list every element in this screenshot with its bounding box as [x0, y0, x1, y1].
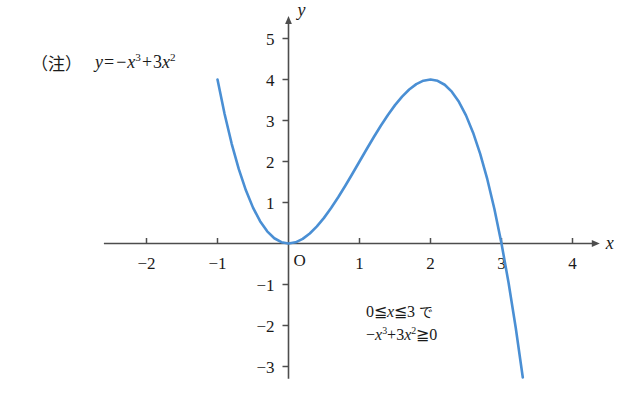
- equation-term2-sign: +: [141, 52, 153, 72]
- annotation-line-1: 0≦x≦3 で: [366, 300, 437, 323]
- x-tick-label: 1: [355, 254, 364, 273]
- annotation-le-2: ≦: [394, 303, 407, 320]
- annotation-line-2: −x3+3x2≧0: [366, 323, 437, 346]
- y-tick-label: −1: [256, 276, 274, 295]
- x-tick-label: 4: [568, 254, 577, 273]
- origin-label: O: [294, 251, 306, 270]
- y-tick-label: 4: [266, 71, 275, 90]
- axes-group: [104, 22, 594, 379]
- domain-annotation: 0≦x≦3 で −x3+3x2≧0: [366, 300, 437, 346]
- x-axis-label: x: [605, 233, 614, 253]
- x-axis-arrowhead: [592, 240, 600, 247]
- equation-equals: =: [103, 52, 115, 72]
- annotation-zero-lower: 0: [366, 303, 374, 320]
- annotation-particle-de: で: [419, 304, 433, 320]
- annotation-le-1: ≦: [374, 303, 387, 320]
- equation-lhs: y: [95, 52, 103, 72]
- tick-marks-group: [147, 39, 573, 367]
- note-marker-label: （注）: [31, 50, 82, 75]
- equation-term2-exponent: 2: [170, 51, 176, 63]
- annotation-coefficient-2: 3: [396, 326, 404, 343]
- annotation-zero-rhs: 0: [429, 326, 437, 343]
- equation-term2-base: x: [162, 52, 170, 72]
- note-equation: y=−x3+3x2: [95, 51, 176, 73]
- y-tick-label: 2: [266, 153, 275, 172]
- x-tick-label: 2: [426, 254, 435, 273]
- y-tick-label: −3: [256, 358, 274, 377]
- annotation-minus-sign: −: [366, 326, 375, 343]
- equation-term2-coefficient: 3: [153, 52, 162, 72]
- x-tick-label: −1: [208, 254, 226, 273]
- y-tick-label: −2: [256, 317, 274, 336]
- graph-figure: （注） y=−x3+3x2 0≦x≦3 で −x3+3x2≧0 −2−11234…: [0, 0, 639, 394]
- y-tick-label: 3: [266, 112, 275, 131]
- x-tick-label: −2: [137, 254, 155, 273]
- annotation-three: 3: [407, 303, 415, 320]
- tick-labels-group: −2−1123454321−1−2−3: [137, 30, 577, 377]
- equation-term1-sign: −: [115, 52, 127, 72]
- annotation-ge-sign: ≧: [416, 326, 429, 343]
- y-axis-arrowhead: [285, 16, 292, 24]
- y-tick-label: 1: [266, 194, 275, 213]
- annotation-plus-sign: +: [387, 326, 396, 343]
- y-axis-label: y: [296, 0, 306, 20]
- y-tick-label: 5: [266, 30, 275, 49]
